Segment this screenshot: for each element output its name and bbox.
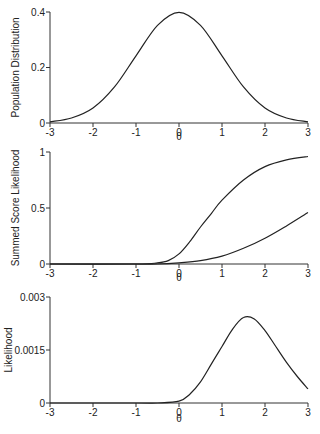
x-axis-title: θ [176,131,182,142]
x-tick-label: 2 [262,268,268,279]
x-tick-label: 1 [219,268,225,279]
x-tick-label: 3 [305,407,311,418]
y-tick-label: 0.4 [31,7,45,18]
y-tick-label: 0.5 [31,203,45,214]
series-upper-line [50,157,308,265]
x-tick-label: -1 [132,407,141,418]
y-tick-label: 0 [39,259,45,270]
x-tick-label: 2 [262,127,268,138]
y-axis-title: Summed Score Likelihood [10,150,21,267]
series-likelihood-line [50,317,308,404]
x-tick-label: -3 [46,407,55,418]
x-tick-label: -2 [89,407,98,418]
x-axis-title: θ [176,413,182,424]
x-tick-label: 1 [219,407,225,418]
y-axis-title: Likelihood [3,327,14,372]
x-tick-label: 1 [219,127,225,138]
x-tick-label: -3 [46,127,55,138]
y-axis-title: Population Distribution [10,17,21,117]
x-tick-label: -1 [132,127,141,138]
x-axis-title: θ [176,272,182,283]
y-tick-label: 0 [39,398,45,409]
x-tick-label: 2 [262,407,268,418]
y-tick-label: 0 [39,118,45,129]
x-tick-label: -3 [46,268,55,279]
chart-panel-3: -3-2-1012300.00150.003θLikelihood [3,292,311,425]
y-tick-label: 1 [39,147,45,158]
y-tick-label: 0.0015 [14,345,45,356]
chart-panel-2: -3-2-1012300.51θSummed Score Likelihood [10,147,311,284]
x-tick-label: 3 [305,268,311,279]
x-tick-label: -2 [89,268,98,279]
x-tick-label: -2 [89,127,98,138]
y-tick-label: 0.003 [20,292,45,303]
y-tick-label: 0.2 [31,62,45,73]
series-population-line [50,12,308,122]
chart-figure: -3-2-1012300.20.4θPopulation Distributio… [0,0,320,434]
series-lower-line [50,213,308,265]
x-tick-label: 3 [305,127,311,138]
chart-panel-1: -3-2-1012300.20.4θPopulation Distributio… [10,7,311,143]
x-tick-label: -1 [132,268,141,279]
